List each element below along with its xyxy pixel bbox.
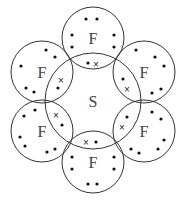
electron-dot [112,45,115,48]
electron-dot [32,90,35,93]
electron-dot [112,155,115,158]
electron-dot [137,151,140,154]
electron-dot [121,77,124,80]
fluorine-label: F [140,123,149,140]
electron-dot [129,147,132,150]
electron-dot [70,167,73,170]
electron-dot [70,45,73,48]
electron-dot [162,64,165,67]
electron-dot [70,155,73,158]
electron-dot [84,17,87,20]
fluorine-label: F [140,64,149,81]
electron-dot [60,123,63,126]
electron-dot [19,64,22,67]
electron-dot [18,135,21,138]
electron-cross: × [124,84,130,95]
electron-dot [156,147,159,150]
electron-cross: × [83,137,89,148]
fluorine-label: F [38,64,47,81]
electron-dot [53,55,56,58]
electron-dot [53,147,56,150]
electron-dot [159,117,162,120]
sulfur-label: S [89,93,98,110]
electron-cross: × [93,59,99,70]
electron-dot [134,48,137,51]
electron-dot [125,115,128,118]
electron-dot [153,55,156,58]
electron-dot [56,86,59,89]
electron-dot [44,48,47,51]
electron-dot [95,182,98,185]
electron-dot [45,150,48,153]
electron-dot [86,182,89,185]
electron-cross: × [58,75,64,86]
fluorine-label: F [89,30,98,47]
electron-dot [112,167,115,170]
fluorine-label: F [89,154,98,171]
electron-dot [94,140,97,143]
electron-dot [24,86,27,89]
fluorine-label: F [38,123,47,140]
electron-dot [86,61,89,64]
electron-dot [70,33,73,36]
electron-dot [22,114,25,117]
electron-cross: × [119,122,125,133]
electron-dot [162,138,165,141]
electron-dot [23,144,26,147]
electron-dot [95,17,98,20]
electron-dot [33,108,36,111]
sf6-diagram: SF×F×F×F×F×F× [0,0,181,202]
electron-cross: × [53,110,59,121]
electron-dot [112,33,115,36]
electron-dot [150,110,153,113]
electron-dot [159,87,162,90]
electron-dot [150,91,153,94]
